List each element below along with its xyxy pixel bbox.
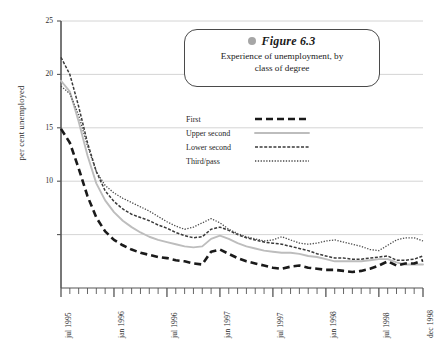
x-tick-label-jul-1998: jul 1998 bbox=[382, 312, 391, 338]
chart-legend: FirstUpper secondLower secondThird/pass bbox=[186, 112, 336, 168]
legend-swatch-thick-dashed bbox=[254, 115, 310, 123]
x-tick-label-jul-1996: jul 1996 bbox=[170, 312, 179, 338]
y-tick-label-25: 25 bbox=[31, 16, 53, 25]
legend-item-lower-second[interactable]: Lower second bbox=[186, 140, 336, 154]
legend-label: Third/pass bbox=[186, 157, 248, 166]
figure-number: Figure 6.3 bbox=[261, 35, 315, 47]
x-tick-label-dec-1998: dec 1998 bbox=[426, 310, 435, 338]
figure-container: per cent unemployed 25 20 15 10 jul 1995… bbox=[0, 0, 443, 354]
x-tick-label-jan-1996: jan 1996 bbox=[117, 311, 126, 338]
x-axis-minor-ticks bbox=[61, 288, 423, 297]
y-tick-label-15: 15 bbox=[31, 123, 53, 132]
legend-item-upper-second[interactable]: Upper second bbox=[186, 126, 336, 140]
x-tick-label-jul-1995: jul 1995 bbox=[64, 312, 73, 338]
figure-caption-line1: Experience of unemployment, by bbox=[185, 50, 379, 62]
legend-label: First bbox=[186, 115, 248, 124]
legend-label: Lower second bbox=[186, 143, 248, 152]
x-tick-label-jul-1997: jul 1997 bbox=[276, 312, 285, 338]
legend-item-third-pass[interactable]: Third/pass bbox=[186, 154, 336, 168]
legend-swatch-dotted bbox=[254, 157, 310, 165]
figure-caption-line2: class of degree bbox=[185, 62, 379, 74]
figure-callout-box: Figure 6.3 Experience of unemployment, b… bbox=[184, 29, 380, 87]
y-axis-title: per cent unemployed bbox=[16, 68, 26, 178]
x-tick-label-jan-1998: jan 1998 bbox=[329, 311, 338, 338]
y-tick-label-10: 10 bbox=[31, 176, 53, 185]
legend-label: Upper second bbox=[186, 129, 248, 138]
series-line-third-pass bbox=[61, 86, 423, 250]
x-tick-label-jan-1997: jan 1997 bbox=[223, 311, 232, 338]
legend-item-first[interactable]: First bbox=[186, 112, 336, 126]
legend-swatch-short-dashed bbox=[254, 143, 310, 151]
bullet-dot-icon bbox=[248, 37, 256, 45]
callout-title-row: Figure 6.3 bbox=[185, 35, 379, 47]
y-tick-label-20: 20 bbox=[31, 69, 53, 78]
legend-swatch-solid-light bbox=[254, 129, 310, 137]
